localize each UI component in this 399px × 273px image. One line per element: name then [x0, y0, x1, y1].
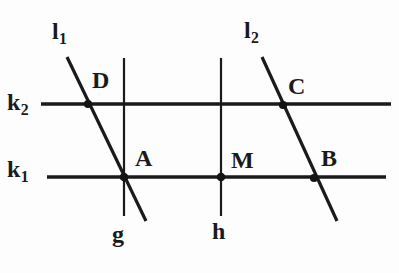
- label-point-C: C: [288, 74, 305, 98]
- label-point-A: A: [135, 146, 152, 170]
- label-l2-subscript: 2: [251, 29, 259, 46]
- label-k1: k1: [7, 157, 29, 181]
- point-D: [84, 100, 92, 108]
- label-l1-base: l: [52, 18, 59, 44]
- label-point-B: B: [321, 146, 337, 170]
- label-l1-subscript: 1: [59, 30, 67, 47]
- geometry-diagram: l1 l2 k2 k1 D C A M B g h: [0, 0, 399, 273]
- label-g: g: [112, 222, 124, 246]
- point-B: [310, 174, 318, 182]
- label-k2-base: k: [7, 89, 20, 115]
- point-C: [279, 101, 287, 109]
- label-l1: l1: [52, 19, 67, 43]
- label-h: h: [212, 219, 225, 243]
- label-k1-base: k: [7, 156, 20, 182]
- point-A: [120, 173, 129, 182]
- label-l2: l2: [244, 18, 259, 42]
- label-k1-subscript: 1: [21, 168, 29, 185]
- label-k2-subscript: 2: [21, 101, 29, 118]
- point-M: [217, 173, 226, 182]
- diagram-points: [84, 100, 318, 182]
- label-point-M: M: [231, 148, 254, 172]
- label-point-D: D: [92, 68, 109, 92]
- label-l2-base: l: [244, 17, 251, 43]
- label-k2: k2: [7, 90, 29, 114]
